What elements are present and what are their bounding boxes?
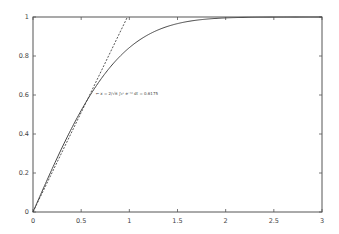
x-tick-label: 0.5 [76,217,86,225]
y-tick-label: 0.8 [19,52,29,60]
y-tick-label: 0.2 [19,169,29,177]
y-tick-label: 0.6 [19,91,29,99]
y-tick-label: 0.4 [19,130,29,138]
plot-area: 00.511.522.53 00.20.40.60.81 ← x = 2/√π … [0,0,339,234]
erf-curve [33,17,322,212]
x-tick-label: 3 [320,217,324,225]
tangent-line [33,17,127,212]
y-tick-label: 1 [25,13,29,21]
x-tick-label: 1 [127,217,131,225]
x-tick-label: 1.5 [172,217,182,225]
x-tick-label: 2.5 [269,217,279,225]
x-tick-label: 0 [31,217,35,225]
x-tick-label: 2 [224,217,228,225]
plot-frame [33,17,322,212]
annotation-label: ← x = 2/√π ∫₀ˣ e⁻ᵗ² dt = 0.6175 [96,91,159,96]
y-axis-ticks: 00.20.40.60.81 [19,13,322,216]
erf-chart: 00.511.522.53 00.20.40.60.81 ← x = 2/√π … [0,0,339,234]
y-tick-label: 0 [25,208,29,216]
